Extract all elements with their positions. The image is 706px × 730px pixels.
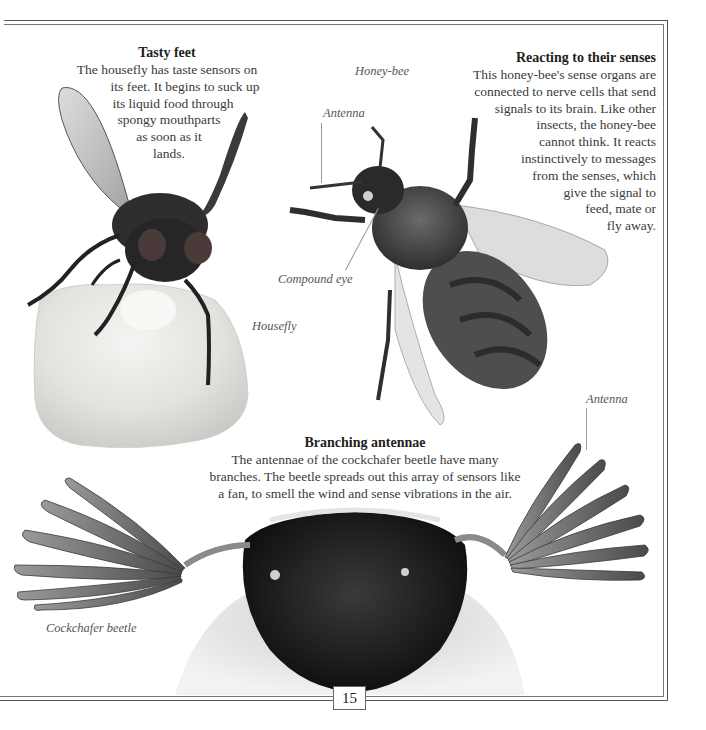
text-line: feed, mate or — [468, 201, 656, 218]
text-line: a fan, to smell the wind and sense vibra… — [170, 486, 560, 503]
branching-body: The antennae of the cockchafer beetle ha… — [170, 452, 560, 502]
bee-antenna-leader-line — [321, 123, 322, 183]
text-line: give the signal to — [468, 185, 656, 202]
tasty-feet-heading: Tasty feet — [62, 44, 272, 62]
reacting-section: Reacting to their senses This honey-bee'… — [468, 49, 656, 235]
text-line: instinctively to messages — [468, 151, 656, 168]
bee-antenna-label: Antenna — [323, 106, 365, 121]
text-line: lands. — [62, 146, 272, 163]
reacting-body: This honey-bee's sense organs are connec… — [468, 67, 656, 235]
text-line: as soon as it — [62, 129, 272, 146]
housefly-label: Housefly — [252, 319, 296, 334]
text-line: connected to nerve cells that send — [468, 84, 656, 101]
page-number: 15 — [333, 686, 366, 710]
text-line: The housefly has taste sensors on — [62, 62, 272, 79]
branching-heading: Branching antennae — [170, 434, 560, 452]
text-line: fly away. — [468, 218, 656, 235]
tasty-feet-section: Tasty feet The housefly has taste sensor… — [62, 44, 272, 163]
reacting-heading: Reacting to their senses — [468, 49, 656, 67]
book-page: Tasty feet The housefly has taste sensor… — [0, 0, 706, 730]
cockchafer-beetle-label: Cockchafer beetle — [46, 621, 137, 636]
text-line: The antennae of the cockchafer beetle ha… — [170, 452, 560, 469]
compound-eye-label: Compound eye — [278, 272, 353, 287]
text-line: spongy mouthparts — [62, 112, 272, 129]
branching-antennae-section: Branching antennae The antennae of the c… — [170, 434, 560, 502]
text-line: its liquid food through — [62, 96, 272, 113]
tasty-feet-body: The housefly has taste sensors on its fe… — [62, 62, 272, 163]
honey-bee-label: Honey-bee — [355, 64, 409, 79]
text-line: from the senses, which — [468, 168, 656, 185]
text-line: This honey-bee's sense organs are — [468, 67, 656, 84]
beetle-antenna-label: Antenna — [586, 392, 628, 407]
text-line: insects, the honey-bee — [468, 117, 656, 134]
frame-rule-top-inner — [4, 24, 664, 25]
text-line: its feet. It begins to suck up — [62, 79, 272, 96]
frame-rule-bottom-inner — [0, 696, 664, 697]
frame-rule-top-outer — [4, 20, 668, 21]
text-line: cannot think. It reacts — [468, 134, 656, 151]
text-line: signals to its brain. Like other — [468, 101, 656, 118]
frame-rule-right-outer — [667, 20, 668, 701]
text-line: branches. The beetle spreads out this ar… — [170, 469, 560, 486]
frame-rule-right-inner — [663, 24, 664, 697]
beetle-antenna-leader-line — [586, 408, 587, 450]
